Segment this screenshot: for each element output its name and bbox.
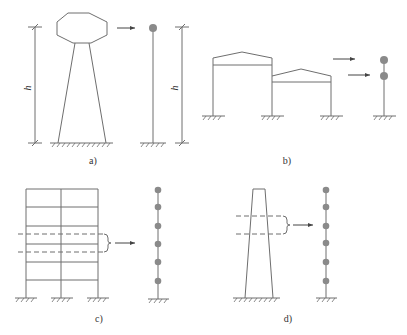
ground-supports-b [202,116,343,120]
panel-a: h [22,13,189,167]
lumped-mass [155,187,162,194]
structural-mass-models-diagram: h [0,0,407,335]
lumped-mass [155,259,162,266]
brace-c [104,234,111,252]
ground-support-d [233,298,280,302]
height-label-left: h [22,86,33,91]
panel-d: d) [233,187,337,325]
lumped-mass [323,240,330,247]
ground-support-stick-c [148,299,169,303]
tapered-chimney [245,189,273,298]
gable-roof-left [213,52,272,58]
water-tank [57,13,107,43]
ground-support-stick-a [140,143,166,147]
dimension-line-left: h [22,24,42,146]
gable-roof-right [272,69,331,76]
height-label-right: h [169,86,180,91]
tower-shaft-right [89,43,106,143]
ground-support-stick-b [373,116,396,120]
panel-label-c: c) [95,313,103,325]
panel-label-d: d) [284,313,292,325]
panel-b: b) [202,52,396,167]
lumped-mass [323,204,330,211]
lumped-mass [323,223,330,230]
panel-c: c) [15,187,169,325]
multistory-frame [26,189,98,298]
ground-supports-c [15,298,109,302]
lumped-mass [323,278,330,285]
lumped-mass [155,241,162,248]
lumped-mass [380,72,388,80]
lumped-mass [155,223,162,230]
lumped-mass [155,278,162,285]
lumped-mass [380,56,388,64]
panel-label-b: b) [283,155,291,167]
lumped-mass [323,187,330,194]
panel-label-a: a) [89,155,97,167]
tower-shaft-left [58,43,75,143]
lumped-mass [323,259,330,266]
dimension-line-right: h [169,24,189,146]
lumped-mass [155,204,162,211]
ground-support-a [50,143,113,147]
ground-support-stick-d [316,298,337,302]
brace-d [283,216,290,234]
lumped-mass [149,24,157,32]
